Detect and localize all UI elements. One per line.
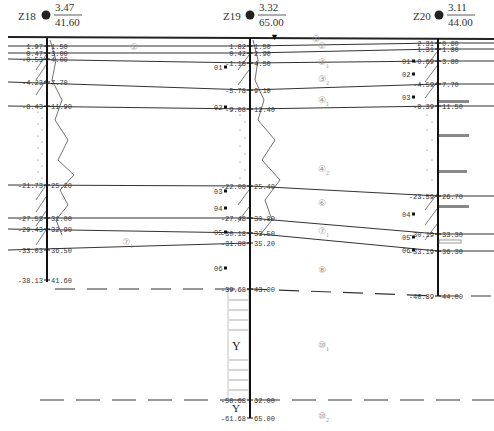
layer-elevation-label: -8.39 xyxy=(413,103,434,111)
layer-elevation-label: -33.03 xyxy=(18,247,43,255)
layer-depth-label: 41.60 xyxy=(51,277,72,285)
svg-text:Z18: Z18 xyxy=(18,10,36,22)
layer-depth-label: 7.70 xyxy=(442,81,459,89)
layer-depth-label: 7.70 xyxy=(51,79,68,87)
layer-depth-label: 33.30 xyxy=(442,231,463,239)
sample-label: 05 xyxy=(402,234,410,242)
stratum-label: ④1 xyxy=(318,95,329,107)
sample-marker-icon xyxy=(224,190,227,193)
layer-elevation-label: 0.42 xyxy=(229,50,246,58)
layer-elevation-label: -9.08 xyxy=(225,106,246,114)
layer-elevation-label: -39.68 xyxy=(221,286,246,294)
sample-label: 02 xyxy=(402,71,410,79)
stratum-label: ⑦1 xyxy=(318,226,329,238)
stratum-label: ⑥ xyxy=(318,198,326,208)
layer-elevation-label: -0.69 xyxy=(413,58,434,66)
layer-elevation-label: -61.68 xyxy=(221,415,246,423)
sample-label: 04 xyxy=(214,205,222,213)
sample-label: 02 xyxy=(214,104,222,112)
layer-depth-label: 4.50 xyxy=(254,60,271,68)
layer-elevation-label: -1.18 xyxy=(225,60,246,68)
layer-depth-label: 33.50 xyxy=(254,230,275,238)
layer-elevation-label: -29.43 xyxy=(18,226,43,234)
layer-depth-label: 62.00 xyxy=(254,397,275,405)
stratum-label: ⑧ xyxy=(318,265,326,275)
layer-elevation-label: -38.13 xyxy=(18,277,43,285)
layer-elevation-label: -4.59 xyxy=(413,81,434,89)
stratum-label: ③2 xyxy=(318,74,329,86)
borehole-z18 xyxy=(35,38,74,282)
sample-marker-icon xyxy=(224,66,227,69)
sample-label: 01 xyxy=(214,64,222,72)
stratum-label: ②1 xyxy=(318,57,329,69)
svg-text:3.32: 3.32 xyxy=(259,1,278,13)
layer-elevation-label: -27.53 xyxy=(18,215,43,223)
svg-text:3.47: 3.47 xyxy=(55,1,75,13)
layer-depth-label: 30.80 xyxy=(254,215,275,223)
sample-marker-icon xyxy=(412,236,415,239)
sample-marker-icon xyxy=(412,73,415,76)
layer-depth-label: 26.70 xyxy=(442,193,463,201)
sample-marker-icon xyxy=(224,106,227,109)
sample-marker-icon xyxy=(412,60,415,63)
borehole-header-z18: Z18 3.47 41.60 xyxy=(18,1,82,28)
layer-depth-label: 44.00 xyxy=(442,293,463,301)
geological-cross-section: Y Y xyxy=(0,0,494,431)
layer-elevation-label: -5.78 xyxy=(225,87,246,95)
layer-depth-label: 32.90 xyxy=(51,226,72,234)
layer-depth-label: 11.50 xyxy=(442,103,463,111)
sample-label: 04 xyxy=(402,211,410,219)
borehole-z19: Y Y xyxy=(228,38,280,418)
layer-elevation-label: -4.23 xyxy=(22,79,43,87)
stratum-label: ⑩1 xyxy=(318,340,329,352)
svg-text:41.60: 41.60 xyxy=(55,16,80,28)
layer-elevation-label: -40.89 xyxy=(409,293,434,301)
sample-marker-icon xyxy=(412,213,415,216)
layer-depth-label: 65.00 xyxy=(254,415,275,423)
sand-symbol-icon: Y xyxy=(232,339,241,353)
sample-marker-icon xyxy=(412,249,415,252)
svg-text:65.00: 65.00 xyxy=(259,16,284,28)
sample-label: 03 xyxy=(402,94,410,102)
layer-elevation-label: -0.53 xyxy=(22,56,43,64)
sample-label: 03 xyxy=(214,188,222,196)
layer-depth-label: 11.90 xyxy=(51,103,72,111)
borehole-header-z20: Z20 3.11 44.00 xyxy=(413,1,475,28)
layer-depth-label: 12.40 xyxy=(254,106,275,114)
layer-depth-label: 1.80 xyxy=(442,46,459,54)
layer-depth-label: 36.50 xyxy=(51,247,72,255)
layer-depth-label: 35.20 xyxy=(254,240,275,248)
layer-elevation-label: -31.88 xyxy=(221,240,246,248)
sample-label: 05 xyxy=(214,229,222,237)
stratum-label: ② xyxy=(130,42,138,52)
layer-elevation-label: -27.48 xyxy=(221,215,246,223)
layer-depth-label: 43.00 xyxy=(254,286,275,294)
sample-label: 01 xyxy=(402,58,410,66)
layer-elevation-label: -22.08 xyxy=(221,183,246,191)
layer-depth-label: 25.20 xyxy=(51,182,72,190)
borehole-header-z19: Z19 3.32 65.00 xyxy=(223,1,286,28)
svg-text:Z19: Z19 xyxy=(223,10,241,22)
layer-elevation-label: -58.68 xyxy=(221,397,246,405)
layer-elevation-label: -23.59 xyxy=(409,193,434,201)
layer-depth-label: 9.10 xyxy=(254,87,271,95)
water-level-icon: ▼ xyxy=(270,32,279,42)
layer-elevation-label: 1.31 xyxy=(417,46,434,54)
svg-text:3.11: 3.11 xyxy=(448,1,467,13)
sample-marker-icon xyxy=(412,96,415,99)
svg-text:Z20: Z20 xyxy=(413,10,431,22)
sample-marker-icon xyxy=(224,267,227,270)
stratum-label: ⑩2 xyxy=(318,411,329,423)
sample-marker-icon xyxy=(224,231,227,234)
layer-elevation-label: -8.43 xyxy=(22,103,43,111)
stratum-label: ④2 xyxy=(318,164,329,176)
layer-depth-label: 36.30 xyxy=(442,248,463,256)
sample-label: 06 xyxy=(402,247,410,255)
layer-depth-label: 2.90 xyxy=(254,50,271,58)
layer-depth-label: 31.00 xyxy=(51,215,72,223)
stratum-label: ② xyxy=(318,41,326,51)
layer-depth-label: 4.00 xyxy=(51,56,68,64)
svg-text:44.00: 44.00 xyxy=(448,16,473,28)
layer-elevation-label: -21.73 xyxy=(18,182,43,190)
borehole-z20 xyxy=(425,38,469,296)
